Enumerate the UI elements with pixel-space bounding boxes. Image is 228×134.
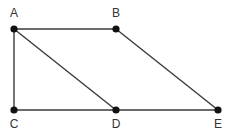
node-b — [112, 25, 119, 32]
node-label-c: C — [10, 117, 19, 131]
node-label-b: B — [112, 6, 120, 20]
node-d — [112, 106, 119, 113]
edge-b-e — [116, 29, 218, 110]
node-e — [214, 106, 221, 113]
edge-a-d — [14, 29, 116, 110]
node-a — [10, 25, 17, 32]
node-c — [10, 106, 17, 113]
node-label-d: D — [112, 117, 121, 131]
graph-diagram: ABCDE — [0, 0, 228, 134]
node-label-a: A — [10, 6, 18, 20]
node-label-e: E — [214, 117, 222, 131]
